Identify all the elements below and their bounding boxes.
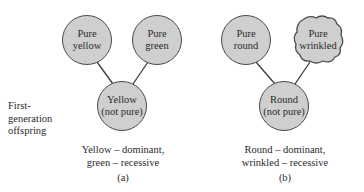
node-text: green [145,40,168,52]
node-pure-wrinkled: Pure wrinkled [291,15,345,65]
node-text: Pure [77,28,96,40]
label-line: First- [8,100,52,113]
node-text: (not pure) [263,106,305,118]
node-text: Pure [147,28,166,40]
caption-line: Round – dominant, [224,144,346,157]
panel-label-b: (b) [274,172,296,183]
node-pure-yellow: Pure yellow [62,15,112,65]
caption-line: green – recessive [62,157,184,170]
first-generation-label: First- generation offspring [8,100,52,138]
label-line: offspring [8,125,52,138]
node-text: Pure [308,28,327,40]
node-round-not-pure: Round (not pure) [259,81,309,131]
node-text: yellow [73,40,102,52]
label-line: generation [8,113,52,126]
caption-a: Yellow – dominant, green – recessive [62,144,184,169]
node-text: wrinkled [299,40,336,52]
node-text: (not pure) [101,106,143,118]
caption-b: Round – dominant, wrinkled – recessive [224,144,346,169]
node-text: Yellow [107,94,137,106]
node-text: Round [270,94,298,106]
caption-line: wrinkled – recessive [224,157,346,170]
node-text: round [234,40,259,52]
node-text: Pure [236,28,255,40]
panel-label-a: (a) [112,172,134,183]
caption-line: Yellow – dominant, [62,144,184,157]
node-yellow-not-pure: Yellow (not pure) [97,81,147,131]
node-pure-green: Pure green [132,15,182,65]
node-pure-round: Pure round [221,15,271,65]
